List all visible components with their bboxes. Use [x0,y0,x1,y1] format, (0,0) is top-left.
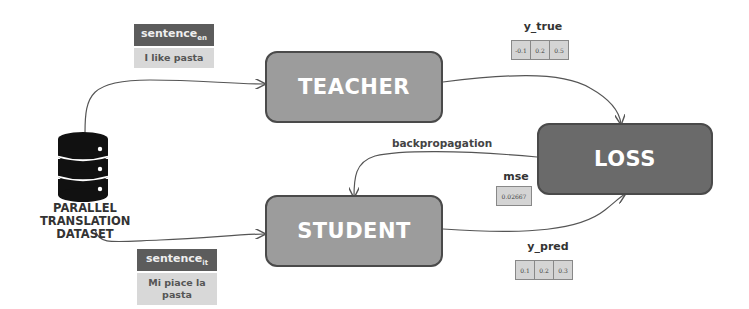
y-pred-label: y_pred [518,240,578,253]
y-true-cell: 0.5 [550,41,568,59]
y-true-cell: -0.1 [512,41,531,59]
y-true-label: y_true [513,20,573,33]
input-sentence-en: sentenceen I like pasta [134,24,214,68]
sentence-en-header: sentenceen [134,24,214,46]
y-true-cell: 0.2 [531,41,550,59]
y-pred-cell: 0.2 [535,261,554,279]
y-pred-cell: 0.1 [516,261,535,279]
mse-label: mse [496,170,536,183]
y-pred-vector: 0.1 0.2 0.3 [515,260,573,280]
student-node: STUDENT [265,195,443,267]
edge-dataset-teacher [85,80,265,133]
backpropagation-label: backpropagation [392,137,492,149]
loss-node: LOSS [537,123,713,195]
y-true-vector: -0.1 0.2 0.5 [511,40,569,60]
sentence-it-text: Mi piace la pasta [137,273,217,305]
dataset-label: PARALLEL TRANSLATION DATASET [40,202,130,241]
teacher-node: TEACHER [265,51,443,123]
input-sentence-it: sentenceit Mi piace la pasta [137,249,217,305]
database-icon [57,131,109,203]
edge-student-loss [443,194,625,231]
sentence-en-text: I like pasta [134,48,214,68]
y-pred-cell: 0.3 [554,261,572,279]
edge-teacher-loss [443,76,621,124]
mse-value: 0.02667 [496,186,532,206]
sentence-it-header: sentenceit [137,249,217,271]
